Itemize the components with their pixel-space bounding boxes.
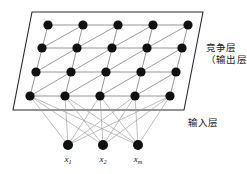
input-node: [133, 140, 143, 150]
competition-node: [165, 91, 174, 100]
input-node-subscript: 2: [103, 158, 106, 165]
network-diagram: [0, 0, 247, 174]
input-node-label: xm: [134, 154, 142, 164]
competition-node: [60, 91, 69, 100]
competition-node: [113, 20, 122, 29]
competition-node: [25, 91, 34, 100]
competition-node: [31, 67, 40, 76]
competition-node: [66, 67, 75, 76]
input-node-subscript: 1: [68, 158, 71, 165]
competition-layer-label: 竞争层 （输出层）: [206, 42, 247, 66]
som-network-figure: 竞争层 （输出层） 输入层 x1x2xm: [0, 0, 247, 174]
input-node-subscript: m: [138, 158, 142, 165]
competition-node: [171, 67, 180, 76]
competition-node: [107, 43, 116, 52]
input-node-label: x1: [64, 154, 71, 164]
input-node-label: x2: [99, 154, 106, 164]
competition-node: [148, 20, 157, 29]
competition-node: [43, 20, 52, 29]
input-node: [98, 140, 108, 150]
competition-node: [37, 43, 46, 52]
input-layer-label: 输入层: [188, 117, 219, 129]
competition-node: [177, 43, 186, 52]
competition-node: [142, 43, 151, 52]
competition-node: [72, 43, 81, 52]
competition-node: [101, 67, 110, 76]
competition-node: [183, 20, 192, 29]
competition-node: [130, 91, 139, 100]
competition-node: [136, 67, 145, 76]
competition-node: [95, 91, 104, 100]
input-node: [63, 140, 73, 150]
competition-layer-label-line2: （输出层）: [206, 54, 247, 66]
competition-layer-label-line1: 竞争层: [206, 42, 237, 53]
competition-node: [78, 20, 87, 29]
